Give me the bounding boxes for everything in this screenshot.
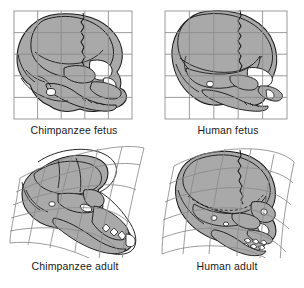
skull-transformation-figure: Chimpanzee fetus xyxy=(0,0,304,288)
panel-human-adult xyxy=(152,142,302,258)
panel-human-fetus xyxy=(156,6,300,122)
panel-chimpanzee-adult xyxy=(2,142,148,258)
canine-tooth xyxy=(126,234,135,247)
auditory-meatus xyxy=(207,81,214,87)
chimpanzee-fetus-skull-drawing xyxy=(17,13,127,112)
mastoid-process xyxy=(223,222,228,226)
caption-chimpanzee-adult: Chimpanzee adult xyxy=(0,260,150,272)
panel-chimpanzee-fetus xyxy=(4,6,144,122)
caption-human-adult: Human adult xyxy=(150,260,304,272)
caption-chimpanzee-fetus: Chimpanzee fetus xyxy=(0,124,148,136)
auditory-meatus xyxy=(47,89,56,96)
human-fetus-skull-drawing xyxy=(172,10,283,111)
caption-human-fetus: Human fetus xyxy=(152,124,304,136)
chimpanzee-adult-skull-drawing xyxy=(22,149,136,254)
auditory-meatus xyxy=(49,202,55,207)
